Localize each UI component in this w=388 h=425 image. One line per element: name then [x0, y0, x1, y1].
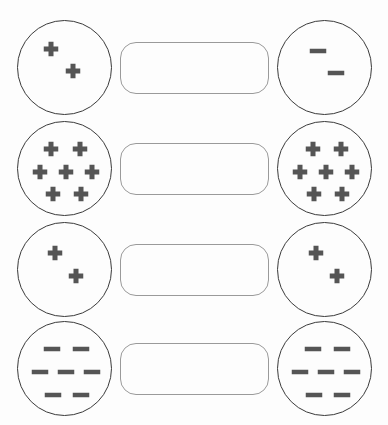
- charge-pair-row-2: [0, 121, 388, 216]
- answer-box-row-2[interactable]: [120, 143, 269, 195]
- minus-charge-icon: [44, 347, 61, 352]
- plus-charge-icon: [334, 142, 349, 157]
- plus-charge-icon: [293, 165, 308, 180]
- plus-charge-icon: [44, 142, 59, 157]
- charged-object-right-row-2: [277, 121, 372, 216]
- minus-charge-icon: [318, 370, 335, 375]
- minus-charge-icon: [306, 393, 323, 398]
- charged-object-left-row-2: [17, 121, 112, 216]
- plus-charge-icon: [319, 165, 334, 180]
- plus-charge-icon: [33, 165, 48, 180]
- minus-charge-icon: [334, 347, 351, 352]
- charge-pairs-worksheet: [0, 0, 388, 425]
- minus-charge-icon: [58, 370, 75, 375]
- plus-charge-icon: [306, 142, 321, 157]
- answer-box-row-4[interactable]: [120, 343, 269, 395]
- minus-charge-icon: [328, 71, 345, 76]
- charged-object-left-row-3: [17, 222, 112, 317]
- minus-charge-icon: [334, 393, 351, 398]
- charged-object-right-row-1: [277, 20, 372, 115]
- minus-charge-icon: [73, 347, 90, 352]
- plus-charge-icon: [46, 187, 61, 202]
- charged-object-right-row-3: [277, 222, 372, 317]
- minus-charge-icon: [32, 370, 49, 375]
- plus-charge-icon: [48, 246, 63, 261]
- plus-charge-icon: [85, 165, 100, 180]
- charged-object-right-row-4: [277, 321, 372, 416]
- plus-charge-icon: [59, 165, 74, 180]
- charge-pair-row-4: [0, 321, 388, 416]
- minus-charge-icon: [45, 393, 62, 398]
- plus-charge-icon: [309, 246, 324, 261]
- minus-charge-icon: [84, 370, 101, 375]
- charge-pair-row-3: [0, 222, 388, 317]
- plus-charge-icon: [69, 269, 84, 284]
- plus-charge-icon: [66, 64, 81, 79]
- charge-pair-row-1: [0, 20, 388, 115]
- charged-object-left-row-4: [17, 321, 112, 416]
- plus-charge-icon: [330, 269, 345, 284]
- plus-charge-icon: [73, 142, 88, 157]
- answer-box-row-3[interactable]: [120, 244, 269, 296]
- plus-charge-icon: [44, 42, 59, 57]
- plus-charge-icon: [345, 165, 360, 180]
- minus-charge-icon: [73, 393, 90, 398]
- answer-box-row-1[interactable]: [120, 42, 269, 94]
- minus-charge-icon: [305, 347, 322, 352]
- plus-charge-icon: [307, 187, 322, 202]
- charged-object-left-row-1: [17, 20, 112, 115]
- minus-charge-icon: [292, 370, 309, 375]
- minus-charge-icon: [310, 49, 327, 54]
- plus-charge-icon: [335, 187, 350, 202]
- minus-charge-icon: [344, 370, 361, 375]
- plus-charge-icon: [74, 187, 89, 202]
